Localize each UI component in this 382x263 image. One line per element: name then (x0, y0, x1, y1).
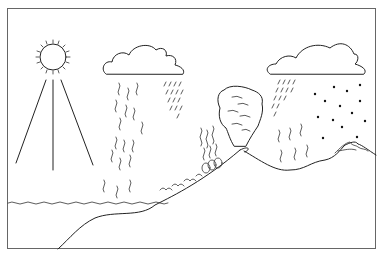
water-cycle-diagram (0, 0, 382, 263)
diagram-frame (8, 9, 376, 249)
